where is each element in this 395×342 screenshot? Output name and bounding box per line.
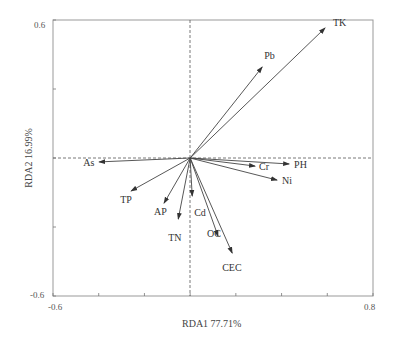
vector-label-cr: Cr <box>259 161 270 172</box>
vector-cr <box>190 158 255 166</box>
vector-label-cd: Cd <box>194 207 206 218</box>
vectors: TKPbPHCrNiAsTPAPTNCdOCCEC <box>83 17 347 273</box>
vector-tn <box>178 158 190 219</box>
y-axis-title: RDA2 16.99% <box>23 128 34 187</box>
vector-label-ap: AP <box>154 206 167 217</box>
vector-ph <box>190 158 289 164</box>
vector-as <box>99 158 190 162</box>
x-tick-min: -0.6 <box>48 302 63 312</box>
vector-label-tn: TN <box>168 232 181 243</box>
vector-pb <box>190 67 262 158</box>
rda-biplot: TKPbPHCrNiAsTPAPTNCdOCCEC 0.6 -0.6 -0.6 … <box>0 0 395 342</box>
vector-label-oc: OC <box>207 228 221 239</box>
x-axis-title: RDA1 77.71% <box>182 318 241 329</box>
vector-label-tk: TK <box>333 17 347 28</box>
vector-label-pb: Pb <box>264 50 275 61</box>
vector-label-tp: TP <box>120 194 132 205</box>
y-tick-max: 0.6 <box>34 20 46 30</box>
x-tick-max: 0.8 <box>364 302 376 312</box>
vector-label-as: As <box>83 157 94 168</box>
vector-label-cec: CEC <box>222 262 242 273</box>
vector-label-ph: PH <box>294 159 307 170</box>
vector-tk <box>190 28 325 158</box>
y-tick-min: -0.6 <box>30 290 45 300</box>
vector-oc <box>190 158 218 236</box>
vector-label-ni: Ni <box>282 175 292 186</box>
vector-tp <box>131 158 190 191</box>
